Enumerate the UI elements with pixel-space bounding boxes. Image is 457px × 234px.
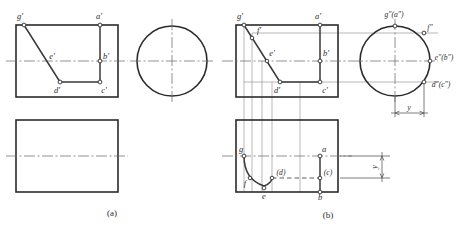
point-g-prime-b [242, 23, 246, 27]
label-d-prime-a: d' [54, 85, 60, 95]
drawing-canvas: g' a' e' b' d' c' (a) [0, 0, 457, 234]
label-eb-double: e"(b") [435, 53, 454, 62]
figure-a-group: g' a' e' b' d' c' (a) [6, 11, 214, 218]
technical-drawing-figure: g' a' e' b' d' c' (a) [0, 0, 457, 234]
label-c-hidden-top: (c) [324, 168, 333, 177]
label-g-prime-b: g' [237, 11, 243, 21]
dim-label-y-bottom: y [370, 165, 379, 170]
point-eb-double [428, 59, 432, 63]
point-g-prime-a [22, 23, 26, 27]
label-e-prime-b: e' [269, 48, 275, 58]
label-b-prime-b: b' [323, 48, 329, 58]
label-g-prime-a: g' [17, 11, 23, 21]
point-d-prime-b [278, 80, 282, 84]
point-a-prime-b [318, 23, 322, 27]
label-dc-double: d"(c") [432, 80, 451, 89]
point-a-top [318, 154, 322, 158]
dim-label-y-top: y [406, 103, 411, 112]
label-f-double: f" [427, 23, 433, 32]
point-f-top [248, 176, 252, 180]
point-b-prime-b [318, 59, 322, 63]
point-d-prime-a [58, 80, 62, 84]
label-d-prime-b: d' [274, 85, 280, 95]
figure-b-group: g' f' a' e' b' d' c' g"(a") f" e"(b") d"… [222, 10, 454, 220]
cut-curve-top [244, 156, 272, 186]
label-f-top: f [244, 178, 248, 188]
point-c-prime-a [98, 80, 102, 84]
point-g-top [242, 154, 246, 158]
label-a-prime-a: a' [96, 11, 102, 21]
label-g-top: g [239, 144, 243, 154]
figure-b-caption: (b) [323, 210, 334, 220]
label-ga-double: g"(a") [384, 10, 404, 19]
label-c-prime-a: c' [101, 85, 107, 95]
point-d-top [270, 176, 274, 180]
point-e-prime-b [265, 59, 269, 63]
label-f-prime-b: f' [257, 25, 261, 35]
figure-a-cut-profile [24, 25, 100, 82]
label-d-hidden-top: (d) [277, 168, 286, 177]
label-b-prime-a: b' [103, 51, 109, 61]
point-e-top [262, 186, 266, 190]
label-c-prime-b: c' [322, 85, 328, 95]
point-f-double [422, 31, 426, 35]
label-b-top: b [318, 192, 322, 202]
label-e-prime-a: e' [49, 51, 55, 61]
label-a-top: a [322, 144, 326, 154]
point-c-top [318, 176, 322, 180]
label-e-top: e [262, 191, 266, 201]
point-a-prime-a [98, 23, 102, 27]
figure-a-caption: (a) [107, 208, 117, 218]
point-b-prime-a [98, 59, 102, 63]
point-c-prime-b [318, 80, 322, 84]
label-a-prime-b: a' [315, 11, 321, 21]
point-ga-double [393, 24, 397, 28]
point-f-prime-b [250, 36, 254, 40]
point-dc-double [422, 80, 426, 84]
figure-b-cut-profile [244, 25, 320, 82]
